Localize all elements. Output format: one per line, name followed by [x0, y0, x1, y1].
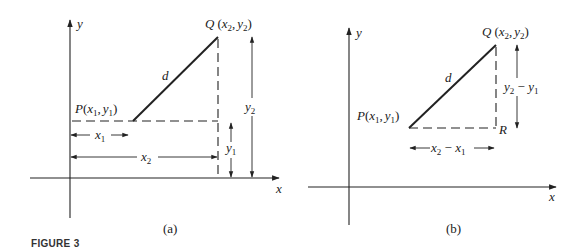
y-axis-label: y: [354, 25, 362, 40]
point-q-label: Q(x2,y2): [205, 16, 252, 33]
dim-x2-label: x2: [140, 149, 151, 166]
panel-b: x y d R P(x1,y1) Q(x2,y2) x2 − x1 y2 − y…: [308, 24, 556, 236]
distance-label-d: d: [162, 68, 169, 83]
y-axis-label: y: [75, 16, 83, 31]
distance-formula-figure: x y d P(x1,y1) Q(x2,y2) x1 x2 y1 y2 (a) …: [0, 0, 581, 252]
x-axis-label: x: [548, 189, 555, 204]
dim-dy-label: y2 − y1: [502, 79, 538, 96]
panel-a-caption: (a): [163, 221, 177, 236]
point-p-label: P(x1,y1): [356, 108, 399, 125]
dim-y1-label: y1: [224, 140, 236, 157]
x-axis-label: x: [275, 181, 282, 196]
panel-b-caption: (b): [446, 221, 461, 236]
point-p-label: P(x1,y1): [74, 101, 117, 118]
dim-x1-label: x1: [94, 127, 105, 144]
figure-caption: FIGURE 3: [31, 238, 80, 249]
point-r-label: R: [498, 122, 507, 137]
segment-pq: [409, 45, 496, 128]
segment-pq: [133, 37, 218, 121]
dim-y2-label: y2: [243, 99, 255, 116]
dim-dx-label: x2 − x1: [430, 140, 465, 157]
point-q-label: Q(x2,y2): [482, 24, 529, 41]
panel-a: x y d P(x1,y1) Q(x2,y2) x1 x2 y1 y2 (a): [30, 16, 282, 236]
distance-label-d: d: [445, 70, 452, 85]
